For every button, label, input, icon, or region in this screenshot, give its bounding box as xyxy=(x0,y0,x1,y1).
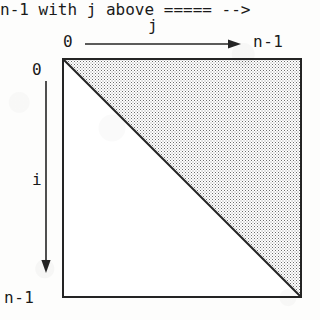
left-axis-end-label: n-1 xyxy=(4,290,34,306)
matrix-bounding-box xyxy=(62,58,302,298)
top-axis-variable-label: j xyxy=(148,18,158,34)
triangular-index-diagram: n-1 with j above ===== --> j 0 n-1 0 i n… xyxy=(0,0,320,320)
top-axis-start-label: 0 xyxy=(63,34,73,50)
matrix-box-interior xyxy=(64,60,300,296)
top-axis-end-label: n-1 xyxy=(253,34,283,50)
top-axis-arrow-right-icon xyxy=(84,34,242,54)
main-diagonal-line xyxy=(64,60,300,296)
left-axis-variable-label: i xyxy=(32,172,42,188)
left-axis-start-label: 0 xyxy=(32,62,42,78)
